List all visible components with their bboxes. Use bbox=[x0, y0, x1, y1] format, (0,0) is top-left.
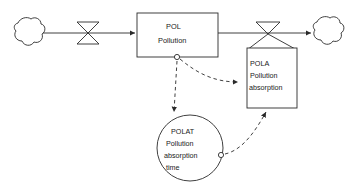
pola-line1-label: Pollution bbox=[250, 71, 278, 80]
pol-info-connector-dot bbox=[174, 54, 179, 59]
polat-code-label: POLAT bbox=[171, 127, 195, 136]
pollution-absorption-time-constant[interactable]: POLAT Pollution absorption time bbox=[157, 115, 223, 181]
stock-flow-diagram: POL Pollution POLA Pollution absorption bbox=[0, 0, 356, 187]
pol-to-polat-info-link bbox=[174, 61, 177, 112]
sink-cloud bbox=[313, 17, 344, 45]
pollution-absorption-rate[interactable]: POLA Pollution absorption bbox=[247, 48, 297, 108]
polat-to-pola-info-link bbox=[225, 112, 266, 154]
polat-info-connector-dot bbox=[218, 152, 223, 157]
pola-code-label: POLA bbox=[250, 59, 269, 68]
polat-line3-label: time bbox=[166, 163, 180, 172]
polat-line1-label: Pollution bbox=[166, 139, 194, 148]
outflow-valve bbox=[247, 22, 297, 50]
polat-line2-label: absorption bbox=[164, 151, 198, 160]
pol-code-label: POL bbox=[166, 22, 181, 31]
source-cloud bbox=[14, 18, 45, 46]
pola-line2-label: absorption bbox=[249, 83, 283, 92]
pollution-stock[interactable]: POL Pollution bbox=[137, 13, 218, 57]
pol-to-pola-info-link bbox=[180, 59, 238, 82]
diagram-canvas: POL Pollution POLA Pollution absorption bbox=[0, 0, 356, 187]
pol-name-label: Pollution bbox=[158, 36, 186, 45]
